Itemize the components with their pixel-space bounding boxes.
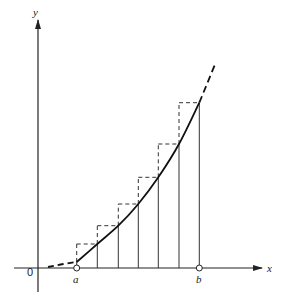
riemann-sum-diagram: y x 0 a b bbox=[0, 0, 284, 298]
point-a-marker bbox=[74, 265, 80, 271]
riemann-rectangles bbox=[77, 103, 200, 268]
curve-dashed-extension-left bbox=[48, 262, 77, 267]
curve-dashed-extension-right bbox=[199, 62, 216, 103]
y-axis-label: y bbox=[32, 6, 38, 18]
origin-label: 0 bbox=[27, 266, 33, 278]
a-label: a bbox=[73, 273, 79, 285]
point-b-marker bbox=[196, 265, 202, 271]
function-curve bbox=[48, 62, 216, 267]
x-axis-label: x bbox=[266, 262, 272, 274]
diagram-canvas: y x 0 a b bbox=[0, 0, 284, 298]
b-label: b bbox=[196, 273, 202, 285]
